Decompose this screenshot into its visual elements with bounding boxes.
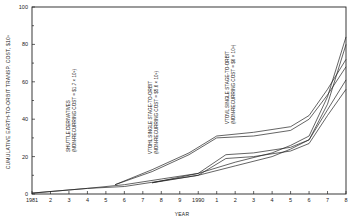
x-tick-label: 1981 — [26, 197, 38, 203]
y-tick-label: 20 — [22, 154, 28, 160]
annotation-shuttle-cost: (NON-RECURRING COST = $1.7 × 10⁹) — [72, 68, 77, 152]
annotation-vtohl-title: VTOHL SINGLE STAGE-TO-ORBIT — [148, 81, 153, 154]
y-tick-label: 80 — [22, 41, 28, 47]
x-tick-label: 6 — [308, 197, 311, 203]
annotation-shuttle-title: SHUTTLE DERIVATIVES — [66, 100, 71, 152]
x-axis-title: YEAR — [175, 211, 190, 217]
x-tick-label: 4 — [86, 197, 89, 203]
x-tick-label: 7 — [326, 197, 329, 203]
x-tick-label: 2 — [49, 197, 52, 203]
x-tick-label: 3 — [67, 197, 70, 203]
plot-frame — [32, 7, 346, 194]
x-tick-label: 3 — [252, 197, 255, 203]
x-tick-label: 8 — [160, 197, 163, 203]
data-series — [32, 37, 346, 193]
x-tick-label: 9 — [178, 197, 181, 203]
x-tick-label: 8 — [344, 197, 347, 203]
x-tick-label: 1 — [215, 197, 218, 203]
x-tick-label: 4 — [271, 197, 274, 203]
cumulative-cost-chart: 020406080100 198123456789199012345678 YE… — [0, 0, 358, 221]
y-axis-title: CUMULATIVE EARTH-TO-ORBIT TRANSP. COST, … — [5, 35, 11, 170]
annotation-vtohl-cost: (NON-RECURRING COST = $5.6 × 10⁹) — [154, 70, 159, 154]
x-tick-label: 2 — [234, 197, 237, 203]
series-line — [32, 44, 346, 193]
annotation-shuttle: SHUTTLE DERIVATIVES (NON-RECURRING COST … — [66, 68, 77, 152]
x-tick-label: 1990 — [192, 197, 204, 203]
x-tick-label: 6 — [123, 197, 126, 203]
y-axis-ticks: 020406080100 — [19, 4, 35, 197]
x-tick-label: 7 — [141, 197, 144, 203]
series-line — [32, 37, 346, 193]
x-tick-label: 5 — [289, 197, 292, 203]
x-tick-label: 5 — [104, 197, 107, 203]
annotation-vtovl-title: VTOVL SINGLE STAGE-TO-ORBIT — [225, 51, 230, 124]
y-tick-label: 100 — [19, 4, 28, 10]
annotation-vtovl: VTOVL SINGLE STAGE-TO-ORBIT (NON-RECURRI… — [225, 44, 236, 124]
x-axis-ticks: 198123456789199012345678 — [26, 191, 348, 203]
y-tick-label: 60 — [22, 79, 28, 85]
annotation-vtohl: VTOHL SINGLE STAGE-TO-ORBIT (NON-RECURRI… — [148, 70, 159, 154]
annotation-vtovl-cost: (NON-RECURRING COST = $6 × 10⁹) — [231, 44, 236, 124]
y-tick-label: 40 — [22, 116, 28, 122]
